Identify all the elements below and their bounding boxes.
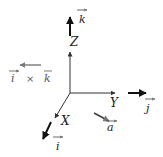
cross-right-label: k [44,72,51,85]
y-axis-label: Y [110,96,119,110]
coordinate-diagram: Z Y X k j i a i × k [0,0,163,157]
a-vector-label: a [107,121,114,134]
diagram-canvas: Z Y X k j i a i × k [0,0,163,157]
j-vector-label: j [143,102,150,115]
i-vector-arrow [43,122,51,139]
x-axis-label: X [60,114,70,128]
k-vector-label: k [79,13,86,26]
cross-left-label: i [11,72,15,85]
a-vector-arrow [94,113,109,121]
i-vector-label: i [56,140,60,153]
z-axis-label: Z [69,35,79,49]
cross-operator: × [26,73,34,84]
